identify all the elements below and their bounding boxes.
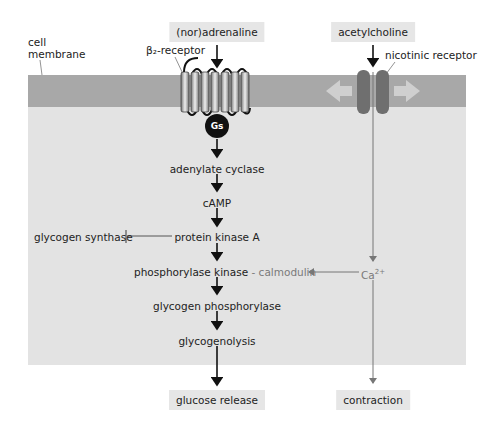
step-glycogenolysis: glycogenolysis — [178, 335, 255, 347]
calmodulin-label: calmodulin — [259, 266, 317, 278]
step-camp: cAMP — [203, 197, 231, 209]
glycogen-synthase-label: glycogen synthase — [34, 231, 133, 243]
step-phosphorylase-kinase: phosphorylase kinase - calmodulin — [134, 266, 316, 278]
calcium-label: Ca2+ — [361, 266, 385, 281]
acetylcholine-box: acetylcholine — [331, 22, 415, 42]
diagram-lines — [0, 0, 489, 425]
beta2-receptor-label: β₂-receptor — [146, 44, 205, 56]
cell-membrane-label: cellmembrane — [28, 36, 85, 60]
step-protein-kinase-a: protein kinase A — [174, 231, 259, 243]
glucose-release-box: glucose release — [169, 390, 265, 410]
noradrenaline-box: (nor)adrenaline — [169, 22, 264, 42]
contraction-box: contraction — [336, 390, 410, 410]
step-adenylate-cyclase: adenylate cyclase — [170, 163, 265, 175]
gs-label: Gs — [211, 120, 224, 132]
step-glycogen-phosphorylase: glycogen phosphorylase — [153, 300, 281, 312]
nicotinic-receptor-label: nicotinic receptor — [385, 49, 477, 61]
